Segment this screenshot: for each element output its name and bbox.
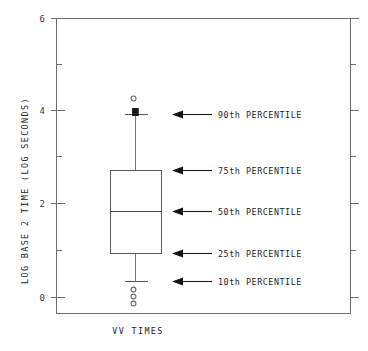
annotation-50th: 50th PERCENTILE (172, 207, 302, 217)
annotation-label-10th: 10th PERCENTILE (218, 277, 302, 287)
plot-frame (57, 19, 351, 314)
boxplot-series-vv-times (111, 96, 162, 306)
y-axis-right-ticks (351, 19, 359, 298)
annotation-90th: 90th PERCENTILE (172, 110, 302, 120)
annotation-label-90th: 90th PERCENTILE (218, 110, 302, 120)
outlier-point (131, 96, 136, 101)
p90-marker (133, 109, 139, 116)
box-plot-canvas: 6 4 2 0 LOG BASE 2 TIME (LOG SECONDS) (0, 0, 368, 351)
annotation-label-50th: 50th PERCENTILE (218, 207, 302, 217)
outlier-point (131, 287, 136, 292)
outlier-point (131, 294, 136, 299)
y-tick-label-4: 4 (40, 106, 45, 116)
y-axis-title: LOG BASE 2 TIME (LOG SECONDS) (20, 97, 30, 284)
outlier-point (131, 301, 136, 306)
annotation-label-75th: 75th PERCENTILE (218, 166, 302, 176)
x-axis-title: VV TIMES (112, 326, 164, 336)
y-tick-label-6: 6 (40, 14, 45, 24)
y-tick-label-0: 0 (40, 293, 45, 303)
annotation-25th: 25th PERCENTILE (172, 249, 302, 259)
y-tick-label-2: 2 (40, 199, 45, 209)
annotation-10th: 10th PERCENTILE (172, 277, 302, 287)
annotation-75th: 75th PERCENTILE (172, 166, 302, 176)
y-axis-left-ticks (57, 19, 65, 298)
annotation-label-25th: 25th PERCENTILE (218, 249, 302, 259)
y-axis-left-tick-stubs (51, 19, 57, 298)
box-plot-figure: 6 4 2 0 LOG BASE 2 TIME (LOG SECONDS) (0, 0, 368, 351)
